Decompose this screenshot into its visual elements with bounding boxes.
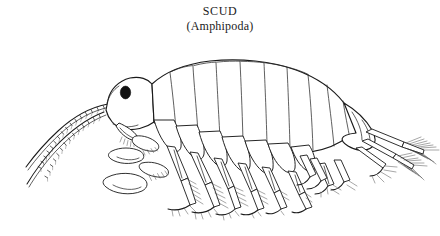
scud-drawing-canvas: .ln{fill:none;stroke:#1a1a1a;stroke-widt… bbox=[0, 0, 440, 236]
head bbox=[106, 77, 154, 129]
illustration-page: SCUD (Amphipoda) .ln{fill:none;stroke:#1… bbox=[0, 0, 440, 236]
scud-illustration: .ln{fill:none;stroke:#1a1a1a;stroke-widt… bbox=[0, 0, 440, 236]
pereopod-7 bbox=[262, 167, 289, 215]
eye bbox=[120, 86, 130, 99]
pereopod-8 bbox=[288, 171, 312, 213]
gnathopod-1 bbox=[108, 136, 158, 164]
gnathopod-2 bbox=[103, 162, 168, 194]
posterior-legs bbox=[297, 155, 327, 189]
